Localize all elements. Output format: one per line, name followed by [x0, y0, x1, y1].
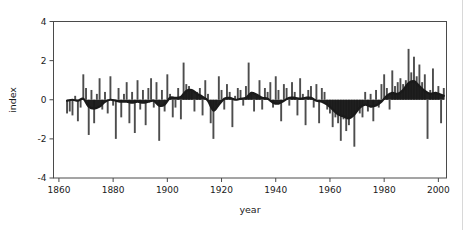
y-tick-label: -2: [38, 134, 47, 144]
bar: [115, 100, 117, 139]
bar: [126, 82, 128, 100]
bar: [77, 100, 79, 122]
bar: [96, 94, 98, 100]
bar: [242, 100, 244, 106]
bar: [231, 100, 233, 127]
bar: [296, 100, 298, 116]
bar: [142, 90, 144, 100]
bar: [145, 100, 147, 125]
page-edge-rule: [462, 0, 463, 230]
bar: [202, 100, 204, 116]
bar: [150, 78, 152, 100]
x-tick-label: 1880: [102, 185, 125, 195]
bar: [123, 94, 125, 100]
bar: [283, 84, 285, 100]
bar: [118, 88, 120, 100]
y-tick-label: 0: [41, 95, 47, 105]
bar: [261, 100, 263, 110]
bar: [381, 84, 383, 100]
bar: [321, 88, 323, 100]
y-tick-label: 4: [41, 17, 47, 27]
index-vs-year-chart: -4-2024 18601880190019201940196019802000…: [0, 0, 468, 230]
bar: [99, 78, 101, 100]
bar: [172, 100, 174, 118]
bar: [109, 76, 111, 99]
bar: [104, 92, 106, 100]
bar: [269, 82, 271, 100]
bar: [318, 100, 320, 123]
bar: [427, 100, 429, 139]
x-tick-label: 1860: [47, 185, 70, 195]
y-tick-label: 2: [41, 56, 47, 66]
x-tick-label: 1900: [156, 185, 179, 195]
chart-figure: -4-2024 18601880190019201940196019802000…: [0, 0, 468, 230]
bar: [221, 90, 223, 100]
bar: [288, 100, 290, 106]
bar: [85, 88, 87, 100]
bar: [383, 74, 385, 99]
bar: [147, 88, 149, 100]
y-axis-title: index: [7, 87, 18, 113]
bar: [82, 74, 84, 99]
bar: [193, 100, 195, 112]
bar: [315, 84, 317, 100]
chart-background: [0, 0, 468, 230]
x-tick-label: 1940: [264, 185, 287, 195]
bar: [134, 100, 136, 133]
x-tick-label: 1980: [373, 185, 396, 195]
bar: [305, 100, 307, 125]
bar: [180, 100, 182, 120]
bar: [370, 94, 372, 100]
bar: [175, 100, 177, 108]
bar: [324, 92, 326, 100]
bar: [389, 100, 391, 110]
bar: [275, 76, 277, 99]
bar: [166, 74, 168, 99]
x-tick-label: 1960: [319, 185, 342, 195]
x-tick-label: 1920: [210, 185, 233, 195]
bar: [237, 88, 239, 100]
bar: [69, 100, 71, 112]
bar: [278, 90, 280, 100]
x-tick-label: 2000: [427, 185, 450, 195]
bar: [218, 76, 220, 99]
y-tick-label: -4: [38, 173, 47, 183]
bar: [253, 100, 255, 112]
bar: [156, 82, 158, 100]
bar: [364, 92, 366, 100]
x-axis-title: year: [239, 204, 260, 215]
bar: [299, 78, 301, 100]
bar: [313, 100, 315, 108]
bar: [440, 100, 442, 123]
bar: [131, 92, 133, 100]
bar: [375, 90, 377, 100]
bar: [223, 100, 225, 110]
bar: [137, 80, 139, 100]
bar: [90, 90, 92, 100]
bar: [161, 90, 163, 100]
bar: [72, 100, 74, 116]
